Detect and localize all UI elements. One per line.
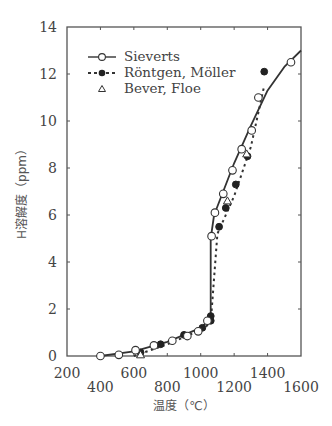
- sieverts-point: [287, 58, 295, 66]
- sieverts-point: [132, 346, 140, 354]
- series-lines: [100, 51, 301, 357]
- rontgen-moller-point: [157, 341, 164, 348]
- legend-rontgen-marker: [99, 70, 106, 77]
- x-tick-label: 200: [54, 365, 81, 381]
- y-tick-label: 6: [48, 207, 57, 223]
- x-axis-title: 温度（℃）: [153, 398, 214, 413]
- sieverts-point: [97, 352, 105, 360]
- series-markers: [97, 58, 295, 359]
- sieverts-point: [194, 328, 202, 336]
- legend-bever-marker: [99, 86, 106, 92]
- x-tick-label: 1600: [283, 379, 319, 395]
- legend: SievertsRöntgen, MöllerBever, Floe: [88, 48, 236, 96]
- rontgen-moller-line: [134, 86, 264, 356]
- sieverts-point: [255, 94, 263, 102]
- rontgen-moller-point: [232, 181, 239, 188]
- y-tick-label: 12: [39, 66, 57, 82]
- x-tick-label: 1000: [183, 365, 219, 381]
- rontgen-moller-point: [216, 223, 223, 230]
- x-tick-label: 1400: [250, 365, 286, 381]
- hydrogen-solubility-chart: 02468101214 2004006008001000120014001600…: [0, 0, 332, 426]
- y-tick-label: 4: [48, 254, 57, 270]
- y-tick-label: 2: [48, 301, 57, 317]
- rontgen-moller-point: [222, 205, 229, 212]
- sieverts-point: [184, 332, 192, 340]
- sieverts-point: [169, 337, 177, 345]
- x-tick-label: 400: [87, 379, 114, 395]
- sieverts-point: [219, 190, 227, 198]
- sieverts-point: [238, 145, 246, 153]
- legend-sieverts-marker: [99, 54, 106, 61]
- sieverts-line: [100, 51, 301, 357]
- sieverts-point: [211, 209, 219, 217]
- y-tick-label: 14: [39, 19, 57, 35]
- x-tick-label: 1200: [216, 379, 252, 395]
- x-tick-label: 800: [154, 379, 181, 395]
- sieverts-point: [150, 342, 158, 350]
- sieverts-point: [204, 317, 212, 325]
- sieverts-point: [208, 232, 216, 240]
- y-tick-label: 10: [39, 113, 57, 129]
- y-tick-label: 8: [48, 160, 57, 176]
- x-tick-label: 600: [120, 365, 147, 381]
- legend-label: Sieverts: [124, 48, 180, 64]
- y-tick-label: 0: [48, 348, 57, 364]
- y-axis-title: H溶解度（ppm）: [14, 143, 29, 239]
- sieverts-point: [248, 127, 256, 135]
- sieverts-point: [229, 167, 237, 175]
- rontgen-moller-point: [261, 68, 268, 75]
- sieverts-point: [115, 351, 123, 359]
- legend-label: Bever, Floe: [124, 80, 201, 96]
- legend-label: Röntgen, Möller: [124, 64, 236, 80]
